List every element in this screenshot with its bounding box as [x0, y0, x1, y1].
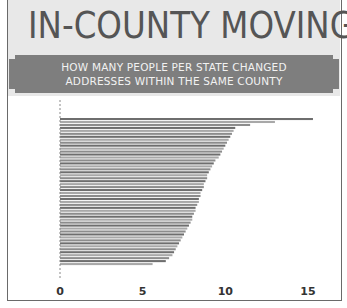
- x-tick-label: 10: [218, 285, 234, 298]
- bar: [60, 177, 207, 179]
- bar: [60, 171, 209, 173]
- x-tick-label: 15: [300, 285, 315, 298]
- bar: [60, 254, 172, 256]
- bars-group: [60, 118, 313, 265]
- bar: [60, 239, 181, 241]
- bar: [60, 233, 184, 235]
- bar: [60, 207, 196, 209]
- x-tick-label: 0: [56, 285, 64, 298]
- bar: [60, 124, 250, 126]
- bar: [60, 151, 222, 153]
- bar: [60, 248, 176, 250]
- bar: [60, 121, 275, 123]
- bar: [60, 145, 225, 147]
- bar: [60, 228, 187, 230]
- bar: [60, 216, 192, 218]
- bar: [60, 165, 212, 167]
- bar: [60, 210, 196, 212]
- bar: [60, 133, 232, 135]
- bar: [60, 242, 179, 244]
- bar: [60, 159, 215, 161]
- bar: [60, 245, 177, 247]
- x-tick-label: 5: [139, 285, 147, 298]
- bar: [60, 189, 202, 191]
- x-ticks-group: 051015: [56, 285, 315, 298]
- bar: [60, 118, 313, 120]
- bar: [60, 148, 224, 150]
- bar: [60, 198, 199, 200]
- bar-chart: 051015: [0, 0, 347, 308]
- bar: [60, 154, 220, 156]
- bar: [60, 156, 219, 158]
- bar: [60, 236, 182, 238]
- bar: [60, 251, 174, 253]
- bar: [60, 204, 197, 206]
- bar: [60, 130, 234, 132]
- bar: [60, 222, 191, 224]
- bar: [60, 257, 169, 259]
- bar: [60, 186, 204, 188]
- bar: [60, 183, 204, 185]
- bar: [60, 213, 194, 215]
- bar: [60, 219, 192, 221]
- bar: [60, 127, 235, 129]
- bar: [60, 139, 229, 141]
- bar: [60, 260, 166, 262]
- bar: [60, 192, 201, 194]
- bar: [60, 174, 207, 176]
- bar: [60, 201, 199, 203]
- bar: [60, 136, 230, 138]
- bar: [60, 168, 210, 170]
- bar: [60, 230, 186, 232]
- bar: [60, 162, 214, 164]
- bar: [60, 263, 153, 265]
- bar: [60, 225, 189, 227]
- bar: [60, 195, 201, 197]
- bar: [60, 142, 227, 144]
- bar: [60, 180, 205, 182]
